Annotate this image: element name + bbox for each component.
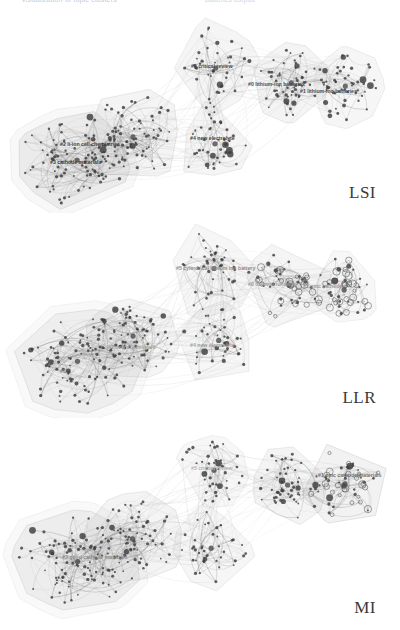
network-panel-llr: LLR [0,213,400,418]
network-graph-llr [0,213,400,418]
network-graph-mi [0,418,400,630]
network-graph-lsi [0,8,400,213]
panel-tag-lsi: LSI [349,183,376,203]
panel-tag-llr: LLR [342,388,376,408]
header-fragment-left: visualization of topic clusters [22,0,117,3]
figure-root: visualization of topic clusters batterie… [0,0,400,630]
network-panel-lsi: LSI [0,8,400,213]
panel-tag-mi: MI [354,598,376,618]
network-panel-mi: MI [0,418,400,630]
header-fragment-right: batteries corpus [205,0,255,3]
